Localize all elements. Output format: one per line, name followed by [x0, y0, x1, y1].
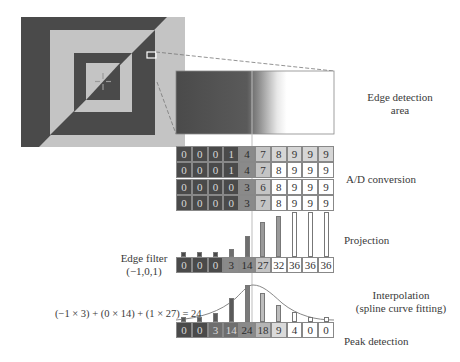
projection-cell: 36: [302, 257, 318, 273]
projection-bar: [276, 216, 281, 257]
projection-bar: [260, 222, 265, 257]
ad-cell: 3: [239, 179, 255, 195]
ad-cell: 0: [223, 195, 239, 211]
ad-cell: 9: [302, 146, 318, 162]
peak-cell: 0: [318, 322, 334, 338]
peak-cell: 4: [287, 322, 303, 338]
ad-cell: 0: [192, 162, 208, 178]
ad-cell: 0: [208, 146, 224, 162]
peak-cell: 24: [239, 322, 255, 338]
ad-cell: 9: [318, 146, 334, 162]
peak-bar: [245, 285, 250, 322]
ad-cell: 9: [287, 179, 303, 195]
ad-cell: 0: [192, 179, 208, 195]
ad-cell: 9: [318, 195, 334, 211]
projection-cell: 14: [239, 257, 255, 273]
peak-cell: 0: [192, 322, 208, 338]
ad-cell: 9: [302, 179, 318, 195]
ad-cell: 9: [318, 179, 334, 195]
projection-bar: [229, 249, 234, 257]
ad-cell: 1: [223, 146, 239, 162]
ad-cell: 8: [271, 195, 287, 211]
peak-bar: [260, 293, 265, 322]
peak-cell: 0: [176, 322, 192, 338]
ad-cell: 0: [208, 179, 224, 195]
ad-cell: 9: [287, 146, 303, 162]
label-line: (spline curve fitting): [340, 302, 460, 315]
projection-cell: 3: [223, 257, 239, 273]
ad-cell: 8: [271, 162, 287, 178]
label-line: Interpolation: [340, 289, 460, 302]
formula-text: (−1 × 3) + (0 × 14) + (1 × 27) = 24: [55, 307, 201, 320]
peak-bar: [213, 313, 218, 322]
peak-cell: 14: [223, 322, 239, 338]
ad-cell: 0: [176, 195, 192, 211]
ad-cell: 0: [208, 195, 224, 211]
projection-bar: [324, 212, 329, 257]
projection-cell: 27: [255, 257, 271, 273]
ad-cell: 6: [255, 179, 271, 195]
ad-cell: 0: [176, 162, 192, 178]
ad-conversion-label: A/D conversion: [346, 173, 416, 186]
projection-cell: 36: [318, 257, 334, 273]
ad-cell: 7: [255, 195, 271, 211]
ad-cell: 4: [239, 162, 255, 178]
projection-bar: [245, 236, 250, 257]
ad-cell: 0: [176, 146, 192, 162]
ad-cell: 7: [255, 162, 271, 178]
ad-cell: 8: [271, 146, 287, 162]
ad-cell: 9: [302, 195, 318, 211]
projection-cell: 36: [287, 257, 303, 273]
interpolation-label: Interpolation (spline curve fitting): [340, 289, 460, 315]
peak-bar: [229, 298, 234, 322]
peak-cell: 3: [208, 322, 224, 338]
label-line: (−1,0,1): [112, 265, 176, 278]
ad-cell: 0: [208, 162, 224, 178]
ad-cell: 1: [223, 162, 239, 178]
ad-cell: 9: [287, 162, 303, 178]
peak-cell: 18: [255, 322, 271, 338]
peak-cell: 0: [302, 322, 318, 338]
ad-cell: 7: [255, 146, 271, 162]
peak-cell: 9: [271, 322, 287, 338]
label-line: Edge filter: [112, 252, 176, 265]
ad-cell: 8: [271, 179, 287, 195]
ad-cell: 4: [239, 146, 255, 162]
ad-cell: 0: [176, 179, 192, 195]
projection-cell: 0: [208, 257, 224, 273]
projection-cell: 32: [271, 257, 287, 273]
peak-bar: [292, 312, 297, 322]
ad-cell: 9: [302, 162, 318, 178]
ad-cell: 0: [192, 146, 208, 162]
label-line: Edge detection: [345, 91, 455, 104]
label-line: area: [345, 104, 455, 117]
projection-bar: [292, 212, 297, 257]
peak-bar: [276, 305, 281, 322]
projection-cell: 0: [192, 257, 208, 273]
ad-cell: 0: [223, 179, 239, 195]
peak-detection-label: Peak detection: [344, 335, 408, 348]
ad-cell: 3: [239, 195, 255, 211]
projection-cell: 0: [176, 257, 192, 273]
ad-cell: 9: [287, 195, 303, 211]
edge-filter-label: Edge filter (−1,0,1): [112, 252, 176, 278]
ad-cell: 0: [192, 195, 208, 211]
projection-bar: [308, 212, 313, 257]
edge-detection-area-label: Edge detection area: [345, 91, 455, 117]
projection-label: Projection: [344, 234, 389, 247]
ad-cell: 9: [318, 162, 334, 178]
